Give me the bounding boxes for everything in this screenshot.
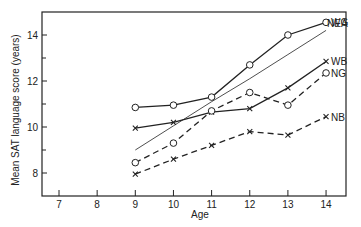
series-group: WGNEAWBNGNB — [132, 17, 348, 176]
circle-marker — [246, 89, 253, 96]
circle-marker — [285, 102, 292, 109]
x-marker — [285, 133, 290, 138]
circle-marker — [170, 140, 177, 147]
circle-marker — [285, 32, 292, 39]
series-label: WB — [331, 56, 347, 67]
y-tick-label: 12 — [27, 76, 39, 87]
series-label: NB — [331, 112, 345, 123]
series-nb: NB — [133, 112, 345, 177]
x-tick-label: 12 — [244, 199, 256, 210]
x-tick-label: 10 — [168, 199, 180, 210]
plot-frame — [42, 12, 346, 196]
x-tick-label: 13 — [282, 199, 294, 210]
x-marker — [324, 59, 329, 64]
circle-marker — [208, 108, 215, 115]
x-tick-label: 14 — [320, 199, 332, 210]
y-tick-label: 10 — [27, 122, 39, 133]
line-chart: 78910111213148101214 WGNEAWBNGNB Age Mea… — [0, 0, 361, 227]
x-tick-label: 8 — [94, 199, 100, 210]
x-axis-label: Age — [191, 209, 209, 220]
axes: 78910111213148101214 — [27, 12, 346, 210]
circle-marker — [323, 70, 330, 77]
y-axis-label: Mean SAT language score (years) — [10, 34, 21, 185]
circle-marker — [132, 104, 139, 111]
series-nea: NEA — [135, 18, 348, 150]
series-label: NG — [331, 68, 346, 79]
y-tick-label: 8 — [32, 168, 38, 179]
circle-marker — [246, 62, 253, 69]
x-tick-label: 7 — [56, 199, 62, 210]
x-tick-label: 9 — [133, 199, 139, 210]
series-wb: WB — [133, 56, 348, 130]
x-marker — [285, 85, 290, 90]
circle-marker — [208, 94, 215, 101]
series-ng: NG — [132, 68, 346, 166]
series-label: NEA — [327, 18, 348, 29]
x-marker — [324, 114, 329, 119]
circle-marker — [170, 102, 177, 109]
circle-marker — [132, 159, 139, 166]
y-tick-label: 14 — [27, 30, 39, 41]
